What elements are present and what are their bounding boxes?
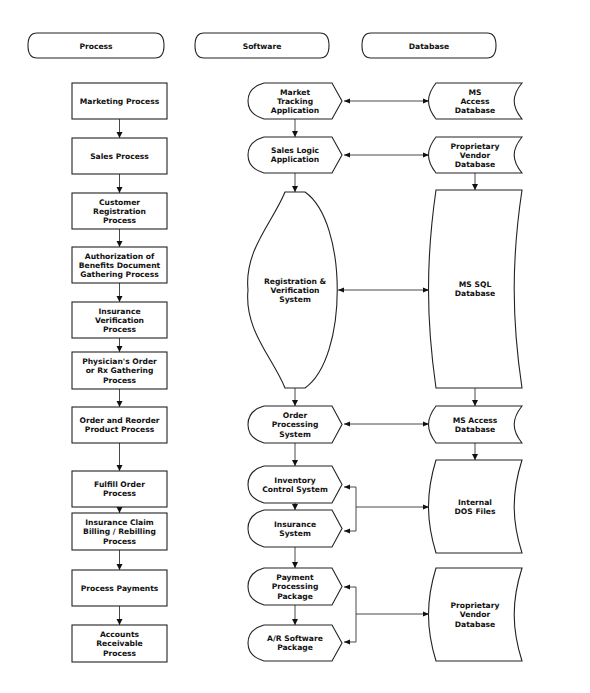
software-label: Insurance — [274, 520, 316, 529]
process-label: Insurance — [98, 307, 140, 316]
process-label: Process — [103, 489, 137, 498]
software-order-processing[interactable]: OrderProcessingSystem — [248, 406, 342, 443]
process-label: Process — [103, 376, 137, 385]
arrowhead-icon — [472, 400, 478, 406]
arrowhead-icon — [292, 619, 298, 625]
process-process-payments[interactable]: Process Payments — [72, 570, 167, 606]
software-label: System — [279, 430, 311, 439]
software-label: Payment — [276, 573, 314, 582]
arrowhead-icon — [292, 400, 298, 406]
header-database: Database — [362, 33, 496, 58]
process-column: Marketing ProcessSales ProcessCustomerRe… — [72, 83, 167, 662]
arrowhead-icon — [117, 619, 123, 625]
software-label: Registration & — [264, 277, 327, 286]
software-label: Market — [280, 88, 310, 97]
process-label: Registration — [93, 207, 146, 216]
process-label: Process — [103, 325, 137, 334]
arrowhead-icon — [292, 562, 298, 568]
database-label: Proprietary — [451, 601, 500, 610]
software-label: Package — [277, 592, 313, 601]
arrowhead-icon — [117, 346, 123, 352]
process-label: Accounts — [100, 630, 140, 639]
process-marketing[interactable]: Marketing Process — [72, 83, 167, 119]
process-authorization-benefits[interactable]: Authorization ofBenefits DocumentGatheri… — [72, 247, 167, 283]
process-sales[interactable]: Sales Process — [72, 138, 167, 174]
database-label: MS — [468, 88, 481, 97]
database-label: Vendor — [460, 610, 491, 619]
arrowhead-icon — [292, 131, 298, 137]
arrowhead-icon — [292, 186, 298, 192]
database-ms-access-2[interactable]: MS AccessDatabase — [429, 406, 523, 443]
process-label: Marketing Process — [80, 97, 160, 106]
arrowhead-icon — [344, 98, 350, 103]
arrowhead-icon — [344, 484, 350, 489]
header-label: Process — [79, 42, 113, 51]
software-label: Sales Logic — [271, 146, 319, 155]
arrowhead-icon — [117, 564, 123, 570]
database-label: Database — [455, 620, 495, 629]
software-registration-verification[interactable]: Registration &VerificationSystem — [248, 192, 338, 388]
software-payment-processing[interactable]: PaymentProcessingPackage — [248, 568, 342, 605]
software-market-tracking[interactable]: MarketTrackingApplication — [248, 83, 342, 119]
process-label: Billing / Rebilling — [83, 527, 156, 536]
arrowhead-icon — [472, 454, 478, 460]
process-label: Insurance Claim — [85, 518, 154, 527]
database-ms-sql[interactable]: MS SQLDatabase — [429, 190, 523, 388]
software-label: Inventory — [274, 476, 315, 485]
process-insurance-verification[interactable]: InsuranceVerificationProcess — [72, 302, 167, 338]
arrowhead-icon — [344, 528, 350, 533]
process-label: Benefits Document — [79, 261, 161, 270]
header-label: Software — [243, 42, 282, 51]
software-label: Control System — [262, 485, 328, 494]
database-label: Database — [455, 289, 495, 298]
arrowhead-icon — [117, 465, 123, 471]
database-label: Vendor — [460, 151, 491, 160]
process-label: Product Process — [85, 425, 155, 434]
software-inventory-control[interactable]: InventoryControl System — [248, 466, 342, 503]
database-proprietary-vendor-1[interactable]: ProprietaryVendorDatabase — [429, 137, 523, 173]
database-column: MSAccessDatabaseProprietaryVendorDatabas… — [429, 83, 523, 661]
process-software-database-flowchart: ProcessSoftwareDatabase Marketing Proces… — [0, 0, 590, 693]
process-order-reorder[interactable]: Order and ReorderProduct Process — [72, 407, 167, 443]
software-label: System — [279, 295, 311, 304]
header-process: Process — [28, 33, 164, 58]
arrowhead-icon — [117, 401, 123, 407]
database-label: MS Access — [453, 416, 498, 425]
process-label: Physician's Order — [82, 357, 157, 366]
arrowhead-icon — [117, 241, 123, 247]
header-label: Database — [409, 42, 449, 51]
header-software: Software — [195, 33, 329, 58]
process-fulfill-order[interactable]: Fulfill OrderProcess — [72, 471, 167, 507]
arrowhead-icon — [344, 584, 350, 589]
arrowhead-icon — [117, 132, 123, 138]
software-label: Application — [271, 155, 319, 164]
process-label: Customer — [99, 198, 140, 207]
process-label: Order and Reorder — [79, 416, 159, 425]
software-label: Package — [277, 643, 313, 652]
software-sales-logic[interactable]: Sales LogicApplication — [248, 137, 342, 173]
software-label: Order — [283, 411, 308, 420]
arrowhead-icon — [472, 184, 478, 190]
database-label: MS SQL — [459, 280, 492, 289]
software-label: Verification — [270, 286, 319, 295]
process-physicians-order[interactable]: Physician's Orderor Rx GatheringProcess — [72, 352, 167, 389]
database-label: DOS Files — [455, 507, 496, 516]
database-label: Proprietary — [451, 142, 500, 151]
process-accounts-receivable[interactable]: AccountsReceivableProcess — [72, 625, 167, 662]
database-proprietary-vendor-2[interactable]: ProprietaryVendorDatabase — [429, 568, 523, 661]
arrowhead-icon — [117, 296, 123, 302]
process-label: Process Payments — [81, 584, 159, 593]
arrowhead-icon — [344, 639, 350, 644]
arrowhead-icon — [117, 507, 123, 513]
software-insurance-system[interactable]: InsuranceSystem — [248, 510, 342, 547]
process-label: Fulfill Order — [94, 480, 145, 489]
database-label: Database — [455, 160, 495, 169]
arrowhead-icon — [344, 421, 350, 426]
database-ms-access-1[interactable]: MSAccessDatabase — [429, 83, 523, 119]
software-ar-software[interactable]: A/R SoftwarePackage — [248, 625, 342, 661]
database-internal-dos-files[interactable]: InternalDOS Files — [429, 460, 523, 553]
process-label: Sales Process — [90, 152, 149, 161]
process-customer-registration[interactable]: CustomerRegistrationProcess — [72, 193, 167, 229]
software-column: MarketTrackingApplicationSales LogicAppl… — [248, 83, 342, 661]
process-insurance-claim[interactable]: Insurance ClaimBilling / RebillingProces… — [72, 513, 167, 550]
